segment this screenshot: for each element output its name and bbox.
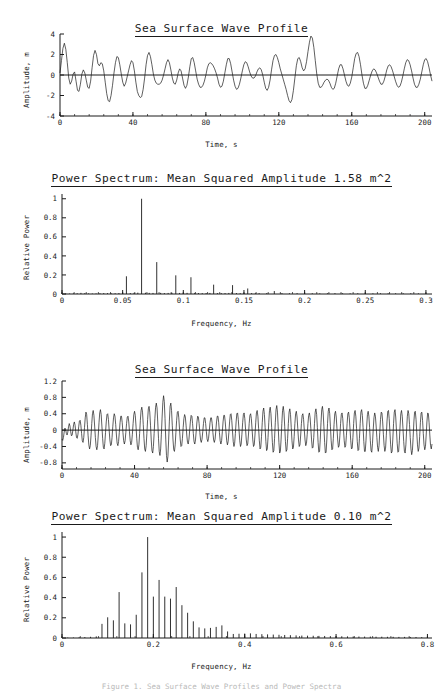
plot-wave-profile-2: -0.8-0.400.40.81.204080120160200 — [0, 335, 443, 510]
panel-power-spectrum-1: Power Spectrum: Mean Squared Amplitude 1… — [0, 160, 443, 335]
svg-text:0.25: 0.25 — [356, 296, 374, 305]
svg-text:0.1: 0.1 — [177, 296, 190, 305]
y-axis-label-spec-1: Relative Power — [22, 215, 31, 280]
svg-text:0.8: 0.8 — [44, 393, 57, 402]
svg-text:0: 0 — [60, 296, 64, 305]
svg-text:0: 0 — [60, 471, 64, 480]
x-axis-label-spec-2: Frequency, Hz — [0, 662, 443, 671]
svg-text:0.2: 0.2 — [44, 613, 57, 622]
svg-text:80: 80 — [203, 471, 212, 480]
y-axis-label-wave-1: Amplitude, m — [22, 52, 31, 108]
x-axis-label-spec-1: Frequency, Hz — [0, 319, 443, 328]
svg-text:-4: -4 — [46, 112, 55, 121]
svg-text:-0.8: -0.8 — [39, 458, 57, 467]
svg-text:0.4: 0.4 — [44, 409, 58, 418]
svg-text:1: 1 — [53, 194, 57, 203]
svg-text:0.2: 0.2 — [44, 271, 57, 280]
svg-text:40: 40 — [130, 471, 139, 480]
svg-text:0.05: 0.05 — [114, 296, 132, 305]
svg-text:0.2: 0.2 — [298, 296, 311, 305]
svg-text:0: 0 — [58, 118, 62, 127]
svg-text:0: 0 — [53, 426, 57, 435]
svg-text:200: 200 — [418, 471, 431, 480]
svg-text:1.2: 1.2 — [44, 377, 57, 386]
svg-text:0.8: 0.8 — [421, 640, 434, 649]
y-axis-label-wave-2: Amplitude, m — [22, 407, 31, 463]
svg-text:40: 40 — [128, 118, 137, 127]
panel-wave-profile-2: Sea Surface Wave Profile -0.8-0.400.40.8… — [0, 335, 443, 510]
svg-text:120: 120 — [273, 471, 286, 480]
svg-text:0.15: 0.15 — [235, 296, 253, 305]
y-axis-label-spec-2: Relative Power — [22, 557, 31, 622]
svg-text:2: 2 — [51, 50, 55, 59]
figure-caption: Figure 1. Sea Surface Wave Profiles and … — [0, 682, 443, 691]
svg-text:0.8: 0.8 — [44, 553, 57, 562]
svg-text:0.3: 0.3 — [419, 296, 432, 305]
svg-text:0.8: 0.8 — [44, 213, 57, 222]
svg-text:120: 120 — [272, 118, 285, 127]
svg-text:0: 0 — [53, 290, 57, 299]
svg-text:0: 0 — [60, 640, 64, 649]
panel-power-spectrum-2: Power Spectrum: Mean Squared Amplitude 0… — [0, 510, 443, 696]
svg-text:160: 160 — [345, 118, 358, 127]
plot-wave-profile-1: -4-202404080120160200 — [0, 0, 443, 160]
svg-text:1: 1 — [53, 533, 57, 542]
svg-text:0.6: 0.6 — [44, 573, 57, 582]
plot-power-spectrum-1: 00.20.40.60.8100.050.10.150.20.250.3 — [0, 160, 443, 335]
svg-text:0.6: 0.6 — [329, 640, 342, 649]
svg-text:0: 0 — [53, 634, 57, 643]
svg-text:0.6: 0.6 — [44, 232, 57, 241]
svg-text:4: 4 — [51, 30, 56, 39]
svg-text:0.4: 0.4 — [238, 640, 252, 649]
svg-text:80: 80 — [201, 118, 210, 127]
svg-text:0: 0 — [51, 71, 55, 80]
svg-text:160: 160 — [346, 471, 359, 480]
x-axis-label-wave-2: Time, s — [0, 492, 443, 501]
figure-sea-surface-waves: Sea Surface Wave Profile -4-202404080120… — [0, 0, 443, 696]
svg-text:0.4: 0.4 — [44, 593, 58, 602]
svg-text:0.4: 0.4 — [44, 252, 58, 261]
svg-text:200: 200 — [418, 118, 431, 127]
svg-text:-2: -2 — [46, 91, 55, 100]
svg-text:-0.4: -0.4 — [39, 442, 57, 451]
x-axis-label-wave-1: Time, s — [0, 140, 443, 149]
svg-text:0.2: 0.2 — [147, 640, 160, 649]
panel-wave-profile-1: Sea Surface Wave Profile -4-202404080120… — [0, 0, 443, 160]
